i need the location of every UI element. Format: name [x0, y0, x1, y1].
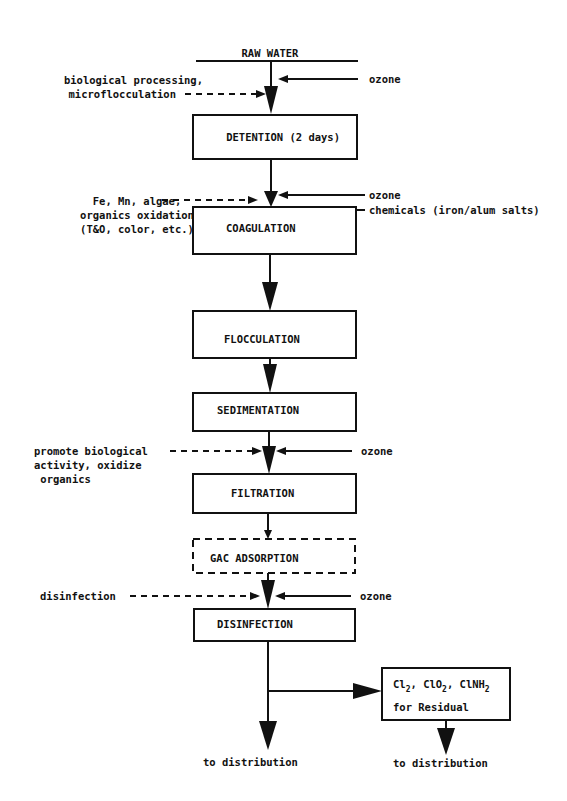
ozone-label: ozone [369, 189, 401, 201]
arrow-left-icon [275, 592, 285, 600]
sedimentation-label: SEDIMENTATION [217, 404, 299, 416]
ozone-label: ozone [360, 590, 392, 602]
gac-adsorption-label: GAC ADSORPTION [210, 552, 299, 564]
detention-label: DETENTION (2 days) [226, 131, 340, 143]
arrow-down-icon [264, 530, 272, 539]
arrow-down-icon [264, 86, 278, 114]
purpose-label: biological processing, [64, 74, 203, 86]
filtration-label: FILTRATION [231, 487, 294, 499]
flocculation-label: FLOCCULATION [224, 333, 300, 345]
residual-purpose-label: for Residual [393, 701, 469, 713]
main-distribution-label: to distribution [203, 756, 298, 768]
arrow-right-icon [252, 447, 262, 455]
ozone-label: ozone [369, 73, 401, 85]
residual-distribution-label: to distribution [393, 757, 488, 769]
purpose-label: activity, oxidize [34, 459, 141, 471]
purpose-label: disinfection [40, 590, 116, 602]
coagulation-label: COAGULATION [226, 222, 296, 234]
arrow-down-icon [262, 446, 276, 474]
purpose-label: microflocculation [69, 88, 176, 100]
raw-water-label: RAW WATER [242, 47, 300, 59]
arrow-right-icon [248, 196, 258, 204]
arrow-left-icon [276, 447, 286, 455]
arrow-right-icon [353, 683, 382, 699]
arrow-down-icon [264, 191, 278, 207]
purpose-label: (T&O, color, etc.) [80, 223, 194, 235]
arrow-right-icon [256, 90, 266, 98]
arrow-down-icon [259, 721, 277, 750]
ozone-treatment-flow-diagram: RAW WATER ozone biological processing, m… [0, 0, 567, 801]
arrow-down-icon [437, 728, 455, 755]
ozone-label: ozone [361, 445, 393, 457]
purpose-label: organics [34, 473, 91, 485]
purpose-label: promote biological [34, 445, 148, 457]
arrow-right-icon [250, 592, 260, 600]
arrow-left-icon [278, 191, 288, 199]
arrow-left-icon [278, 75, 288, 83]
arrow-down-icon [262, 282, 278, 311]
disinfection-label: DISINFECTION [217, 618, 293, 630]
arrow-down-icon [261, 580, 275, 609]
chemicals-label: chemicals (iron/alum salts) [369, 204, 540, 216]
arrow-down-icon [263, 364, 277, 393]
purpose-label: organics oxidation [80, 209, 194, 221]
